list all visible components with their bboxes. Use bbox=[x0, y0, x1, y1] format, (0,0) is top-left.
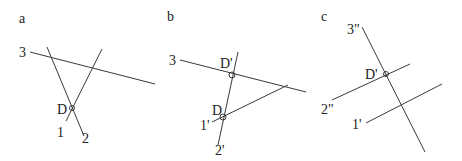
line-2 bbox=[47, 47, 84, 136]
panel-label-a: a bbox=[19, 11, 26, 26]
point-label-d-prime: D' bbox=[365, 67, 378, 82]
point-label-d: D bbox=[57, 102, 67, 117]
point-label-d-prime: D' bbox=[220, 56, 233, 71]
line-label-1-prime: 1' bbox=[200, 118, 210, 133]
line-label-2: 2 bbox=[82, 131, 89, 146]
panel-a: a 3 D 1 2 bbox=[19, 11, 155, 146]
line-label-2-double-prime: 2" bbox=[321, 102, 334, 117]
panel-label-c: c bbox=[321, 9, 327, 24]
line-3 bbox=[180, 60, 306, 92]
panel-c: c 3" D' 2" 1' bbox=[321, 9, 442, 152]
panel-label-b: b bbox=[167, 9, 174, 24]
line-label-3: 3 bbox=[19, 45, 26, 60]
line-label-2-prime: 2' bbox=[215, 143, 225, 158]
line-label-1-prime: 1' bbox=[352, 117, 362, 132]
line-label-1: 1 bbox=[57, 125, 64, 140]
line-1-prime bbox=[212, 85, 288, 122]
point-label-d: D bbox=[212, 103, 222, 118]
line-label-3-double-prime: 3" bbox=[347, 22, 360, 37]
diagram-canvas: a 3 D 1 2 b 3 D' D 1' 2' c 3" D' 2" 1' bbox=[0, 0, 462, 161]
line-label-3: 3 bbox=[169, 53, 176, 68]
panel-b: b 3 D' D 1' 2' bbox=[167, 9, 306, 158]
line-3-double-prime bbox=[362, 27, 425, 152]
line-1-prime bbox=[366, 84, 442, 123]
